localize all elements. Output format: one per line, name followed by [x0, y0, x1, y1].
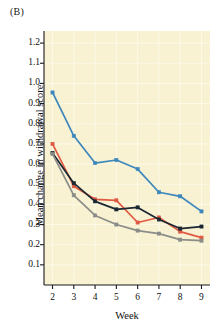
data-point-marker [51, 91, 54, 94]
data-point-marker [157, 232, 160, 235]
data-point-marker [136, 167, 139, 170]
data-point-marker [200, 239, 203, 242]
data-point-marker [157, 218, 160, 221]
data-point-marker [72, 134, 75, 137]
y-tick-label: 0.2 [12, 240, 40, 250]
data-point-marker [136, 206, 139, 209]
data-series-layer [44, 31, 210, 285]
series-red [51, 142, 203, 239]
data-point-marker [72, 194, 75, 197]
x-axis-title: Week [44, 310, 210, 321]
y-axis-tick-labels: 0.10.20.30.40.50.60.70.80.91.01.11.2 [6, 0, 40, 333]
series-line-red [53, 144, 202, 238]
y-tick-label: 0.3 [12, 220, 40, 230]
data-point-marker [179, 238, 182, 241]
y-tick-label: 0.6 [12, 159, 40, 169]
data-point-marker [200, 210, 203, 213]
data-point-marker [136, 221, 139, 224]
data-point-marker [93, 161, 96, 164]
x-tick-label: 9 [191, 293, 211, 303]
y-tick-label: 0.1 [12, 260, 40, 270]
y-tick-label: 0.4 [12, 199, 40, 209]
plot-area [44, 31, 210, 285]
y-tick-label: 0.5 [12, 179, 40, 189]
y-tick-label: 0.7 [12, 139, 40, 149]
x-tick-label: 5 [106, 293, 126, 303]
data-point-marker [115, 208, 118, 211]
x-tick-label: 4 [85, 293, 105, 303]
data-point-marker [157, 191, 160, 194]
data-point-marker [115, 223, 118, 226]
x-tick-label: 8 [170, 293, 190, 303]
x-axis-tick-labels: 23456789 [0, 293, 219, 307]
figure-panel-b: (B) Mean change in withdrawal score Week… [0, 0, 219, 333]
y-tick-label: 0.8 [12, 119, 40, 129]
data-point-marker [51, 152, 54, 155]
data-point-marker [179, 227, 182, 230]
series-black [51, 151, 203, 230]
y-tick-label: 1.0 [12, 78, 40, 88]
y-tick-label: 0.9 [12, 99, 40, 109]
data-point-marker [72, 182, 75, 185]
y-tick-label: 1.1 [12, 58, 40, 68]
x-tick-label: 3 [64, 293, 84, 303]
data-point-marker [179, 230, 182, 233]
data-point-marker [93, 200, 96, 203]
data-point-marker [115, 158, 118, 161]
data-point-marker [115, 199, 118, 202]
data-point-marker [136, 229, 139, 232]
data-point-marker [179, 195, 182, 198]
x-tick-label: 6 [128, 293, 148, 303]
data-point-marker [51, 142, 54, 145]
x-tick-label: 2 [43, 293, 63, 303]
data-point-marker [93, 214, 96, 217]
y-tick-label: 1.2 [12, 38, 40, 48]
data-point-marker [200, 236, 203, 239]
x-tick-label: 7 [149, 293, 169, 303]
data-point-marker [200, 225, 203, 228]
